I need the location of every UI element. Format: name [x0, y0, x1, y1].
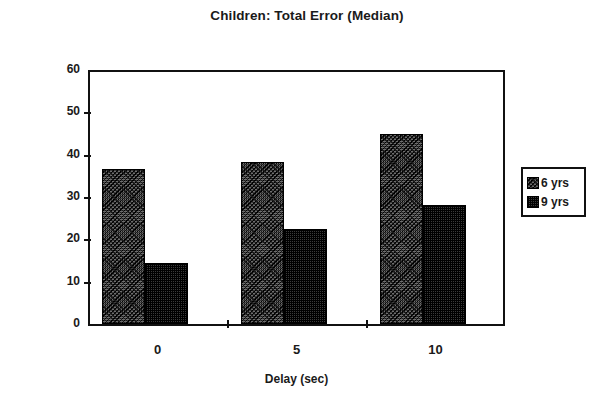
- y-tick-mark-50: [84, 112, 91, 114]
- legend-swatch-icon-9-yrs: [527, 196, 539, 208]
- y-tick-mark-40: [84, 155, 91, 157]
- bar-6-yrs-delay-0: [102, 169, 145, 324]
- y-tick-label-30: 30: [46, 189, 80, 203]
- y-tick-label-50: 50: [46, 104, 80, 118]
- x-tick-label-5: 5: [267, 342, 327, 357]
- y-tick-label-20: 20: [46, 231, 80, 245]
- bar-9-yrs-delay-5: [284, 229, 327, 324]
- legend-label: 6 yrs: [541, 176, 569, 190]
- legend-item-6-yrs: 6 yrs: [527, 173, 581, 192]
- bar-6-yrs-delay-10: [380, 134, 423, 325]
- legend-swatch-icon-6-yrs: [527, 177, 539, 189]
- x-tick-mark-10: [366, 320, 368, 328]
- y-tick-label-0: 0: [46, 316, 80, 330]
- bar-6-yrs-delay-5: [241, 162, 284, 324]
- y-tick-label-60: 60: [46, 62, 80, 76]
- chart-legend: 6 yrs9 yrs: [521, 167, 586, 217]
- x-tick-label-10: 10: [406, 342, 466, 357]
- legend-item-9-yrs: 9 yrs: [527, 192, 581, 211]
- y-tick-mark-30: [84, 197, 91, 199]
- bar-9-yrs-delay-10: [423, 205, 466, 324]
- y-tick-label-40: 40: [46, 147, 80, 161]
- plot-area: [88, 70, 505, 326]
- y-tick-label-10: 10: [46, 274, 80, 288]
- y-tick-mark-20: [84, 239, 91, 241]
- chart-title: Children: Total Error (Median): [0, 8, 614, 23]
- x-tick-mark-5: [227, 320, 229, 328]
- bar-9-yrs-delay-0: [145, 263, 188, 324]
- x-axis-title: Delay (sec): [88, 372, 505, 386]
- y-tick-mark-10: [84, 282, 91, 284]
- legend-label: 9 yrs: [541, 195, 569, 209]
- x-tick-label-0: 0: [128, 342, 188, 357]
